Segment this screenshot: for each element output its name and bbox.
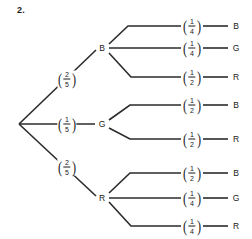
probability-g-to-b: ( 1 2 ) [182, 97, 201, 114]
right-paren: ) [197, 190, 201, 207]
right-paren: ) [197, 40, 201, 57]
fraction: 1 2 [188, 97, 196, 114]
right-paren: ) [197, 131, 201, 148]
leaf-node-8: R [233, 222, 239, 231]
left-paren: ( [183, 131, 187, 148]
right-paren: ) [197, 218, 201, 235]
probability-r-to-b: ( 1 2 ) [182, 165, 201, 182]
fraction-denominator: 2 [190, 106, 194, 113]
branch-r-to-b [109, 173, 181, 193]
probability-b-to-b: ( 1 4 ) [182, 18, 201, 35]
fraction-numerator: 1 [190, 40, 194, 47]
fraction: 1 2 [188, 69, 196, 86]
node-level1-r: R [97, 194, 106, 203]
fraction: 2 5 [63, 159, 71, 176]
probability-b-to-r: ( 1 2 ) [182, 69, 201, 86]
probability-g-to-r: ( 1 2 ) [182, 131, 201, 148]
branch-g-to-r [109, 128, 181, 139]
probability-root-to-b: ( 2 5 ) [57, 71, 76, 88]
fraction: 1 4 [188, 190, 196, 207]
fraction-denominator: 2 [190, 78, 194, 85]
probability-b-to-g: ( 1 4 ) [182, 40, 201, 57]
fraction-numerator: 2 [65, 71, 69, 78]
left-paren: ( [183, 69, 187, 86]
fraction-numerator: 1 [190, 218, 194, 225]
left-paren: ( [58, 116, 62, 133]
fraction-denominator: 4 [190, 199, 194, 206]
probability-root-to-g: ( 1 5 ) [57, 116, 76, 133]
branch-b-to-r [109, 53, 181, 77]
right-paren: ) [197, 69, 201, 86]
leaf-node-7: G [233, 194, 240, 203]
probability-r-to-g: ( 1 4 ) [182, 190, 201, 207]
leaf-node-6: B [233, 169, 239, 178]
right-paren: ) [197, 165, 201, 182]
fraction: 1 4 [188, 218, 196, 235]
left-paren: ( [58, 71, 62, 88]
fraction-numerator: 1 [190, 18, 194, 25]
branch-b-to-b [109, 26, 181, 44]
fraction-numerator: 1 [190, 165, 194, 172]
probability-tree-diagram: 2. [0, 0, 252, 239]
fraction: 1 5 [63, 116, 71, 133]
branch-g-to-b [109, 105, 181, 120]
probability-r-to-r: ( 1 4 ) [182, 218, 201, 235]
right-paren: ) [72, 71, 76, 88]
leaf-node-2: G [233, 44, 240, 53]
fraction-denominator: 5 [65, 125, 69, 132]
fraction-numerator: 1 [190, 190, 194, 197]
fraction-numerator: 1 [190, 69, 194, 76]
fraction-denominator: 2 [190, 140, 194, 147]
fraction: 1 2 [188, 131, 196, 148]
right-paren: ) [72, 116, 76, 133]
left-paren: ( [183, 165, 187, 182]
left-paren: ( [183, 18, 187, 35]
right-paren: ) [72, 159, 76, 176]
left-paren: ( [183, 190, 187, 207]
tree-branch-lines [0, 0, 252, 239]
node-level1-b: B [98, 44, 107, 53]
branch-r-to-r [109, 202, 181, 226]
leaf-node-4: B [233, 101, 239, 110]
fraction-denominator: 4 [190, 49, 194, 56]
fraction-denominator: 4 [190, 227, 194, 234]
left-paren: ( [183, 218, 187, 235]
fraction-numerator: 2 [65, 159, 69, 166]
left-paren: ( [183, 40, 187, 57]
node-level1-g: G [97, 120, 107, 129]
fraction: 2 5 [63, 71, 71, 88]
left-paren: ( [58, 159, 62, 176]
fraction-denominator: 4 [190, 27, 194, 34]
fraction-denominator: 2 [190, 174, 194, 181]
right-paren: ) [197, 18, 201, 35]
leaf-node-5: R [233, 135, 239, 144]
leaf-node-3: R [233, 73, 239, 82]
probability-root-to-r: ( 2 5 ) [57, 159, 76, 176]
fraction: 1 4 [188, 18, 196, 35]
right-paren: ) [197, 97, 201, 114]
fraction: 1 4 [188, 40, 196, 57]
fraction-numerator: 1 [190, 97, 194, 104]
leaf-node-1: B [233, 22, 239, 31]
fraction-numerator: 1 [190, 131, 194, 138]
left-paren: ( [183, 97, 187, 114]
fraction-denominator: 5 [65, 80, 69, 87]
fraction-denominator: 5 [65, 168, 69, 175]
fraction-numerator: 1 [65, 116, 69, 123]
fraction: 1 2 [188, 165, 196, 182]
